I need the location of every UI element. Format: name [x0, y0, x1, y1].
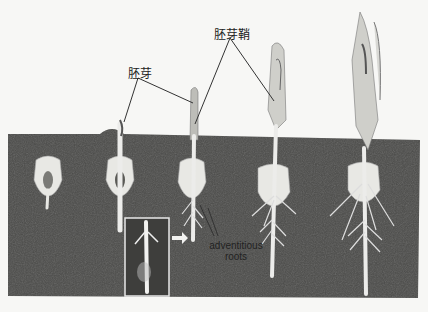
label-adventitious-line1: adventitious — [200, 240, 272, 251]
label-adventitious-roots: adventitious roots — [200, 240, 272, 262]
label-plumule: 胚芽 — [128, 64, 152, 81]
germination-diagram: 胚芽 胚芽鞘 adventitious roots — [0, 0, 428, 312]
label-coleoptile: 胚芽鞘 — [214, 25, 250, 42]
diagram-artwork — [0, 0, 428, 312]
label-adventitious-line2: roots — [200, 251, 272, 262]
soil — [8, 129, 420, 298]
